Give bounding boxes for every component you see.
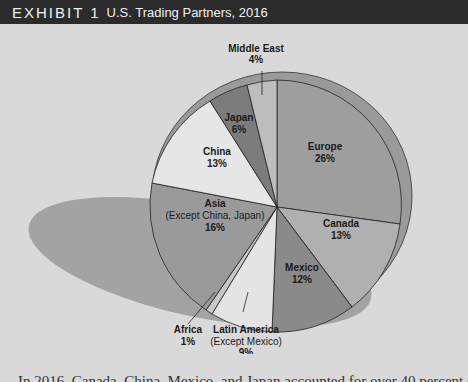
caption-text: In 2016, Canada, China, Mexico, and Japa…	[18, 368, 468, 382]
value-mexico: 12%	[292, 274, 312, 285]
label-africa: Africa	[174, 324, 203, 335]
value-japan: 6%	[232, 124, 247, 135]
value-asia: 16%	[205, 222, 225, 233]
value-africa: 1%	[181, 336, 196, 347]
slice-europe	[277, 80, 401, 224]
label-mexico: Mexico	[285, 262, 319, 273]
value-china: 13%	[207, 158, 227, 169]
label-japan: Japan	[225, 112, 254, 123]
label-asia: Asia	[204, 198, 226, 209]
value-middle-east: 4%	[249, 54, 264, 65]
exhibit-header: EXHIBIT 1 U.S. Trading Partners, 2016	[0, 0, 468, 24]
sublabel-latin-america: (Except Mexico)	[210, 336, 282, 347]
pie-chart: Middle East 4% Japan 6% Europe 26% China…	[0, 24, 468, 354]
label-latin-america: Latin America	[213, 324, 279, 335]
value-canada: 13%	[331, 230, 351, 241]
label-china: China	[203, 146, 231, 157]
value-latin-america: 9%	[239, 347, 254, 354]
value-europe: 26%	[315, 153, 335, 164]
label-europe: Europe	[308, 141, 343, 152]
sublabel-asia: (Except China, Japan)	[166, 210, 265, 221]
exhibit-number: EXHIBIT 1	[12, 4, 101, 21]
exhibit-title: U.S. Trading Partners, 2016	[107, 5, 268, 20]
label-middle-east: Middle East	[228, 43, 284, 54]
label-canada: Canada	[323, 218, 360, 229]
